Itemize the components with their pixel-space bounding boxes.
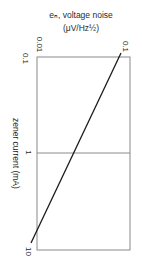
plot-area (0, 0, 142, 271)
noise-curve (31, 53, 121, 243)
